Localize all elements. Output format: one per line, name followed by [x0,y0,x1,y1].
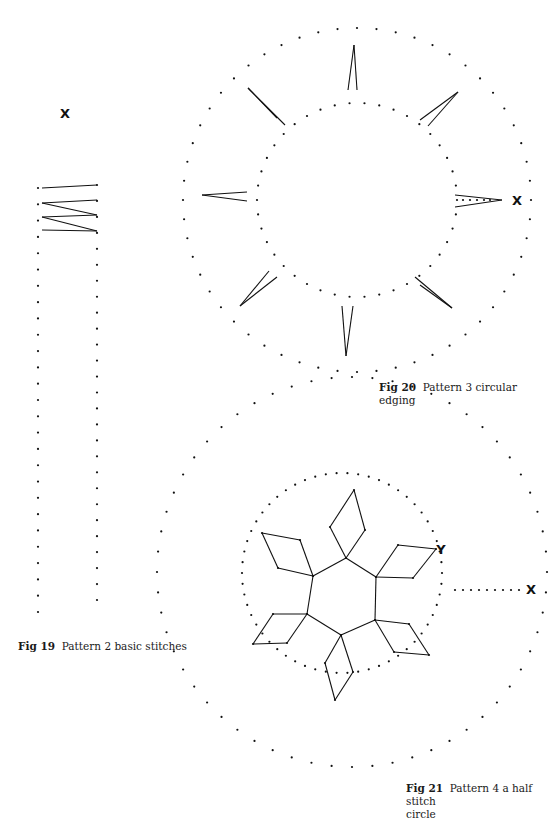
stitch-dot [412,577,414,579]
stitch-dot [247,64,249,66]
stitch-dot [335,672,337,674]
stitch-dot [220,92,222,94]
stitch-dot [494,589,496,591]
stitch-dot [536,511,538,513]
stitch-dot [529,218,531,220]
stitch-dot [388,484,390,486]
stitch-dot [37,317,39,319]
stitch-dot [418,123,420,125]
stitch-dot [260,170,262,172]
stitch-dot [479,77,481,79]
stitch-dot [96,391,98,393]
stitch-line [42,215,97,217]
stitch-dot [96,487,98,489]
stitch-dot [276,496,278,498]
stitch-dot [304,479,306,481]
stitch-line [202,195,247,201]
stitch-dot [268,503,270,505]
stitch-dot [429,133,431,135]
stitch-dot [280,354,282,356]
stitch-dot [336,370,338,372]
stitch-dot [96,535,98,537]
stitch-dot [206,701,208,703]
stitch-dot [364,529,366,531]
stitch-dot [96,344,98,346]
stitch-dot [294,484,296,486]
stitch-dot [430,749,432,751]
stitch-dot [199,124,201,126]
stitch-line [394,652,429,655]
stitch-dot [261,632,263,634]
stitch-dot [429,265,431,267]
stitch-dot [199,274,201,276]
fig20-caption-text2: edging [379,394,416,406]
stitch-dot [236,729,238,731]
stitch-dot [418,275,420,277]
stitch-dot [464,64,466,66]
fig19-diagram: X [37,106,98,613]
stitch-dot [37,236,39,238]
stitch-line [330,490,354,527]
fig21-diagram: YX [156,376,548,768]
stitch-dot [257,184,259,186]
stitch-dot [436,604,438,606]
stitch-dot [439,144,441,146]
stitch-dot [432,530,434,532]
stitch-dot [317,31,319,33]
stitch-dot [209,290,211,292]
stitch-dot [518,589,520,591]
stitch-dot [462,199,464,201]
stitch-dot [545,551,547,553]
stitch-dot [520,256,522,258]
stitch-dot [299,539,301,541]
stitch-dot [392,289,394,291]
stitch-line [42,217,97,231]
stitch-dot [440,561,442,563]
fig19-caption-label: Fig 19 [18,640,55,652]
stitch-dot [448,740,450,742]
stitch-dot [529,180,531,182]
stitch-line [307,576,313,614]
stitch-dot [406,496,408,498]
stitch-line [248,88,285,125]
stitch-dot [96,248,98,250]
stitch-dot [546,571,548,573]
stitch-dot [272,613,274,615]
stitch-line [428,92,458,126]
stitch-line [346,306,353,356]
stitch-dot [492,306,494,308]
stitch-dot [357,671,359,673]
stitch-dot [421,511,423,513]
stitch-dot [502,589,504,591]
stitch-dot [250,614,252,616]
stitch-dot [255,623,257,625]
fig21-caption-text2: circle [406,808,436,820]
stitch-dot [392,109,394,111]
stitch-dot [481,426,483,428]
stitch-dot [257,213,259,215]
stitch-line [253,643,287,644]
stitch-dot [241,561,243,563]
stitch-dot [427,520,429,522]
stitch-dot [331,765,333,767]
stitch-line [354,45,357,90]
stitch-dot [96,471,98,473]
stitch-dot [37,448,39,450]
stitch-dot [503,290,505,292]
stitch-dot [545,591,547,593]
stitch-line [341,635,353,672]
stitch-dot [334,293,336,295]
stitch-dot [96,567,98,569]
stitch-dot [529,650,531,652]
stitch-dot [247,333,249,335]
stitch-dot [96,312,98,314]
stitch-dot [37,220,39,222]
stitch-dot [542,530,544,532]
stitch-dot [439,593,441,595]
stitch-dot [182,473,184,475]
stitch-dot [255,520,257,522]
fig20-caption-label: Fig 20 [379,381,416,393]
stitch-line [42,185,97,188]
stitch-line [307,614,341,635]
